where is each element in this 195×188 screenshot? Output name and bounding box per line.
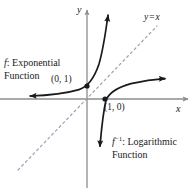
point-marker-0-1 bbox=[84, 83, 89, 88]
y-axis-label: y bbox=[77, 4, 81, 16]
logarithmic-name-line1: Logarithmic bbox=[128, 136, 177, 147]
identity-line-x: x bbox=[156, 12, 160, 22]
identity-line-label: y=x bbox=[144, 12, 160, 23]
logarithmic-separator: : bbox=[122, 136, 125, 147]
exponential-separator: : bbox=[7, 57, 10, 68]
logarithmic-name-line2: Function bbox=[112, 149, 148, 160]
point-label-1-0: (1, 0) bbox=[104, 102, 125, 113]
exponential-name-line2: Function bbox=[4, 70, 40, 81]
identity-line-equals: = bbox=[148, 12, 155, 22]
exponential-name-line1: Exponential bbox=[12, 57, 60, 68]
point-label-0-1: (0, 1) bbox=[51, 74, 72, 85]
exponential-logarithmic-graph-figure: y x y=x f: Exponential Function f−1: Log… bbox=[0, 0, 195, 188]
x-axis-label: x bbox=[176, 103, 180, 115]
exponential-up-arrow-icon bbox=[107, 16, 108, 23]
point-marker-1-0 bbox=[102, 96, 107, 101]
logarithmic-function-label: f−1: Logarithmic Function bbox=[112, 136, 177, 161]
